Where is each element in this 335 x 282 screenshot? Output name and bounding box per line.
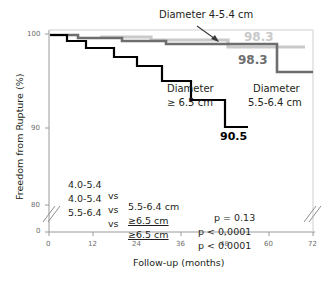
label-diameter-ge-6-5-line1: Diameter <box>167 83 214 95</box>
y-tick-label-100: 100 <box>27 30 40 38</box>
x-axis-title: Follow-up (months) <box>133 258 225 269</box>
x-tick-label-36: 36 <box>176 240 185 248</box>
stats-row-2-group-b: ≥6.5 cm <box>128 215 169 226</box>
y-tick-label-90: 90 <box>31 124 40 132</box>
endpoint-label-4-5-4: 98.3 <box>244 31 274 45</box>
survival-chart: 100 90 80 0 0 12 24 36 48 60 72 Freedom … <box>0 0 335 282</box>
stats-row-3-group-a: 5.5-6.4 <box>68 207 102 218</box>
x-tick-label-24: 24 <box>132 240 141 248</box>
label-diameter-5-5-6-4-line1: Diameter <box>253 83 300 95</box>
callout-diameter-4-5-4-label: Diameter 4-5.4 cm <box>159 9 253 21</box>
stats-row-2-pvalue: p < 0.0001 <box>198 226 251 237</box>
curve-diameter-ge-6-5 <box>50 35 248 127</box>
endpoint-label-ge-6-5: 90.5 <box>220 131 247 144</box>
stats-row-2: 4.0-5.4 vs ≥6.5 cm p < 0.0001 <box>68 182 86 196</box>
x-tick-label-72: 72 <box>308 240 317 248</box>
endpoint-label-5-5-6-4: 98.3 <box>238 54 268 68</box>
stats-row-3-vs: vs <box>108 218 119 229</box>
stats-row-3-pvalue: p < 0.0001 <box>198 240 251 251</box>
y-tick-label-80: 80 <box>31 201 40 209</box>
x-tick-label-12: 12 <box>88 240 97 248</box>
stats-row-1-group-b: 5.5-6.4 cm <box>128 201 179 212</box>
stats-row-2-vs: vs <box>108 204 119 215</box>
stats-row-1-vs: vs <box>108 190 119 201</box>
x-tick-label-0: 0 <box>46 240 50 248</box>
x-tick-label-60: 60 <box>264 240 273 248</box>
stats-row-3: 5.5-6.4 vs ≥6.5 cm p < 0.0001 <box>68 196 86 210</box>
label-diameter-ge-6-5-line2: ≥ 6.5 cm <box>167 97 213 109</box>
label-diameter-5-5-6-4-line2: 5.5-6.4 cm <box>248 97 302 109</box>
stats-block: 4.0-5.4 vs 5.5-6.4 cm p = 0.13 4.0-5.4 v… <box>68 168 86 210</box>
y-axis-title: Freedom from Rupture (%) <box>14 74 25 200</box>
stats-row-3-group-b: ≥6.5 cm <box>128 229 169 240</box>
stats-row-1-pvalue: p = 0.13 <box>214 212 255 223</box>
stats-row-1: 4.0-5.4 vs 5.5-6.4 cm p = 0.13 <box>68 168 86 182</box>
y-tick-label-0: 0 <box>36 227 40 235</box>
y-axis-break-icon <box>43 206 60 223</box>
